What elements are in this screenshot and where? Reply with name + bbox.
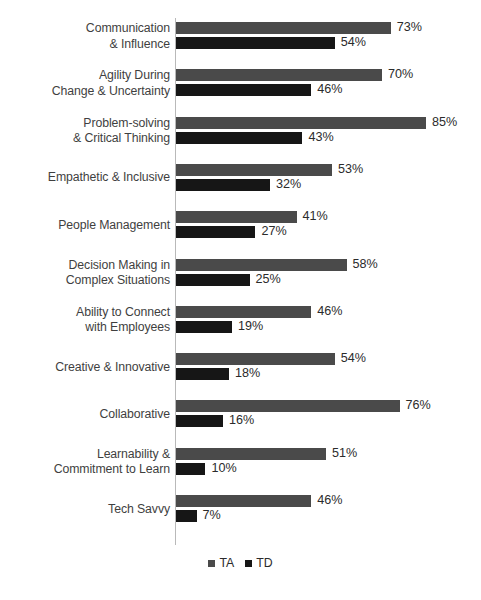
bar-value-label: 10% xyxy=(211,461,236,475)
bar-ta xyxy=(176,448,326,460)
bar-ta xyxy=(176,22,391,34)
bar-ta xyxy=(176,69,382,81)
bar-td xyxy=(176,226,255,238)
bar-ta xyxy=(176,259,347,271)
legend-label: TD xyxy=(256,556,272,570)
category-label: Learnability & Commitment to Learn xyxy=(5,447,170,478)
bar-value-label: 32% xyxy=(276,177,301,191)
bar-td xyxy=(176,415,223,427)
bar-td xyxy=(176,132,302,144)
category-label: Collaborative xyxy=(5,407,170,423)
category-label: Ability to Connect with Employees xyxy=(5,305,170,336)
bar-ta xyxy=(176,117,426,129)
bar-value-label: 46% xyxy=(317,82,342,96)
bar-ta xyxy=(176,164,332,176)
bar-value-label: 41% xyxy=(303,209,328,223)
bar-ta xyxy=(176,495,311,507)
category-label: Decision Making in Complex Situations xyxy=(5,258,170,289)
bar-value-label: 73% xyxy=(397,20,422,34)
bar-value-label: 19% xyxy=(238,319,263,333)
category-label: People Management xyxy=(5,218,170,234)
bar-chart: Communication & Influence73%54%Agility D… xyxy=(0,0,481,600)
bar-value-label: 53% xyxy=(338,162,363,176)
bar-value-label: 76% xyxy=(406,398,431,412)
chart-legend: TATD xyxy=(0,556,481,570)
bar-td xyxy=(176,37,335,49)
category-label: Agility During Change & Uncertainty xyxy=(5,68,170,99)
bar-td xyxy=(176,368,229,380)
bar-value-label: 51% xyxy=(332,446,357,460)
bar-value-label: 58% xyxy=(353,257,378,271)
bar-value-label: 25% xyxy=(256,272,281,286)
legend-label: TA xyxy=(219,556,234,570)
bar-value-label: 16% xyxy=(229,413,254,427)
bar-td xyxy=(176,84,311,96)
bar-td xyxy=(176,274,250,286)
bar-value-label: 85% xyxy=(432,115,457,129)
bar-value-label: 46% xyxy=(317,304,342,318)
legend-swatch-icon xyxy=(208,560,215,567)
bar-td xyxy=(176,321,232,333)
category-label: Communication & Influence xyxy=(5,21,170,52)
bar-td xyxy=(176,463,205,475)
bar-ta xyxy=(176,211,297,223)
bar-value-label: 46% xyxy=(317,493,342,507)
legend-swatch-icon xyxy=(245,560,252,567)
category-label: Empathetic & Inclusive xyxy=(5,170,170,186)
bar-value-label: 54% xyxy=(341,351,366,365)
category-label: Creative & Innovative xyxy=(5,360,170,376)
bar-value-label: 70% xyxy=(388,67,413,81)
category-label: Problem-solving & Critical Thinking xyxy=(5,116,170,147)
bar-value-label: 27% xyxy=(261,224,286,238)
bar-td xyxy=(176,179,270,191)
bar-ta xyxy=(176,306,311,318)
bar-value-label: 54% xyxy=(341,35,366,49)
legend-item[interactable]: TA xyxy=(208,556,234,570)
bar-ta xyxy=(176,400,400,412)
plot-area: Communication & Influence73%54%Agility D… xyxy=(0,0,481,547)
legend-item[interactable]: TD xyxy=(245,556,272,570)
bar-value-label: 43% xyxy=(308,130,333,144)
bar-value-label: 7% xyxy=(203,508,221,522)
category-label: Tech Savvy xyxy=(5,502,170,518)
bar-ta xyxy=(176,353,335,365)
bar-value-label: 18% xyxy=(235,366,260,380)
bar-td xyxy=(176,510,197,522)
